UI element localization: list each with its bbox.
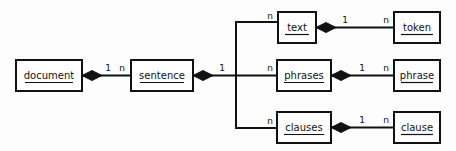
- entity-clause-label: clause: [401, 122, 433, 133]
- cardinality-clauses-one: 1: [359, 115, 365, 125]
- cardinality-phrases-one: 1: [359, 63, 365, 73]
- entity-phrase-label: phrase: [400, 70, 434, 81]
- diagram-canvas: document sentence text token phrases: [0, 0, 456, 151]
- entity-clause[interactable]: clause: [394, 112, 440, 143]
- cardinality-sentence-branch-one: 1: [219, 63, 225, 73]
- entity-token-label: token: [403, 22, 431, 33]
- entity-text-label: text: [287, 22, 307, 33]
- cardinality-phrase-many: n: [383, 63, 389, 73]
- entity-text[interactable]: text: [278, 12, 316, 43]
- entity-document-label: document: [24, 70, 75, 81]
- composition-diamond-sentence: [193, 71, 213, 81]
- cardinality-phrases-many: n: [267, 63, 273, 73]
- cardinality-token-many: n: [383, 15, 389, 25]
- er-diagram: document sentence text token phrases: [0, 0, 456, 151]
- cardinality-clauses-many: n: [267, 116, 273, 126]
- composition-diamond-phrases: [331, 71, 351, 81]
- entity-document[interactable]: document: [16, 60, 82, 91]
- composition-diamond-clauses: [331, 123, 351, 133]
- entity-sentence[interactable]: sentence: [131, 60, 193, 91]
- cardinality-text-one: 1: [342, 15, 348, 25]
- composition-diamond-text: [316, 23, 336, 33]
- cardinality-clause-many: n: [383, 115, 389, 125]
- composition-diamond-document: [82, 71, 102, 81]
- entity-phrase[interactable]: phrase: [394, 60, 440, 91]
- entity-token[interactable]: token: [394, 12, 440, 43]
- entity-phrases[interactable]: phrases: [277, 60, 331, 91]
- entity-clauses-label: clauses: [285, 122, 322, 133]
- entity-clauses[interactable]: clauses: [277, 112, 331, 143]
- entity-sentence-label: sentence: [139, 70, 185, 81]
- cardinality-text-many: n: [267, 11, 273, 21]
- entity-phrases-label: phrases: [284, 70, 324, 81]
- cardinality-sentence-many: n: [119, 63, 125, 73]
- cardinality-document-one: 1: [105, 63, 111, 73]
